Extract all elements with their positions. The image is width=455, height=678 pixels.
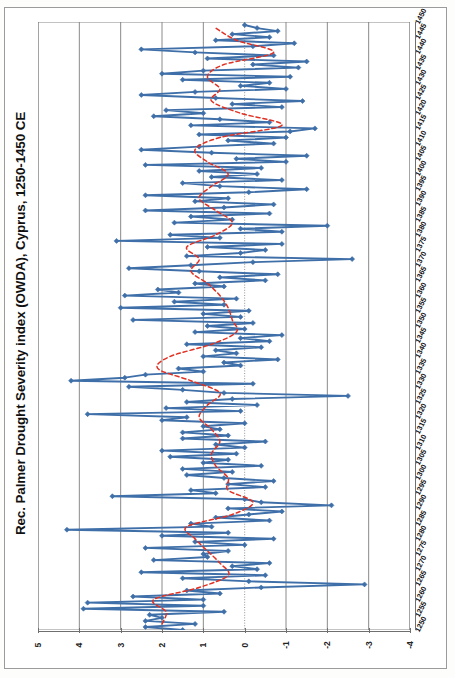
year-axis-labels: 1450144514401435143014251420141514101405…	[415, 22, 455, 630]
value-axis-line	[38, 631, 410, 632]
value-axis-tick-label: 1	[198, 639, 208, 651]
value-axis-tick-label: 3	[116, 639, 126, 651]
page-title: Rec. Palmer Drought Severity index (OWDA…	[13, 4, 28, 644]
value-axis-tick-label: 0	[240, 639, 250, 651]
value-axis-tick-label: -2	[322, 639, 332, 651]
chart-svg	[38, 22, 410, 630]
value-axis-tick	[410, 628, 411, 633]
value-axis-tick-label: -3	[364, 639, 374, 651]
value-axis-labels: 543210-1-2-3-4	[38, 632, 410, 658]
plot-area	[38, 22, 410, 630]
value-axis-tick-label: -1	[281, 639, 291, 651]
year-axis-line	[415, 22, 416, 630]
chart-page: Rec. Palmer Drought Severity index (OWDA…	[0, 0, 455, 678]
value-axis-tick-label: 5	[33, 639, 43, 651]
value-axis-tick-label: -4	[405, 639, 415, 651]
value-axis-tick-label: 4	[74, 639, 84, 651]
value-axis-tick-label: 2	[157, 639, 167, 651]
